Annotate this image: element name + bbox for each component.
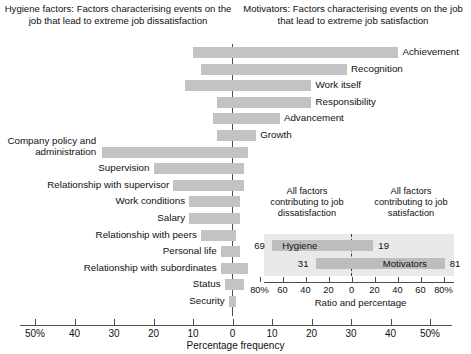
motivators-heading: Motivators: Factors characterising event… [240, 3, 466, 26]
bar-label: Salary [0, 212, 185, 224]
bar-row: Advancement [0, 112, 471, 126]
axis-tick-label: 30 [331, 328, 371, 339]
inset-heading-dissatisfaction: All factors contributing to job dissatis… [264, 186, 350, 218]
inset-left-value: 69 [254, 240, 265, 251]
axis-tick [154, 319, 155, 326]
axis-tick [351, 319, 352, 326]
bar [102, 147, 248, 158]
bar [217, 97, 312, 108]
inset-axis-tick [444, 277, 445, 282]
inset-left-value: 31 [298, 258, 309, 269]
inset-bar-label: Hygiene [282, 240, 317, 251]
axis-tick-label: 10 [252, 328, 292, 339]
bar-label: Security [0, 295, 225, 307]
bar-label: Advancement [284, 112, 344, 124]
axis-tick-label: 40 [371, 328, 411, 339]
bar [154, 163, 245, 174]
inset-axis-tick [329, 277, 330, 282]
bar-row: Recognition [0, 63, 471, 77]
bar [193, 47, 398, 58]
bar-label: Recognition [351, 63, 403, 75]
x-axis-title: Percentage frequency [0, 340, 471, 351]
inset-axis-title: Ratio and percentage [256, 297, 465, 308]
bar-label: Relationship with subordinates [0, 262, 217, 274]
inset-axis-tick [260, 277, 261, 282]
bar [229, 296, 237, 307]
bar [189, 213, 240, 224]
axis-tick [312, 319, 313, 326]
ratio-inset-panel: All factors contributing to job dissatis… [256, 186, 465, 310]
inset-axis-tick-label: 80% [429, 285, 459, 295]
inset-bar-label: Motivators [383, 258, 427, 269]
bar [201, 64, 347, 75]
inset-right-value: 19 [378, 240, 389, 251]
bar-row: Work itself [0, 79, 471, 93]
x-axis: 50%4030201001020304050% Percentage frequ… [0, 316, 471, 354]
inset-axis-line [264, 282, 454, 283]
bar-row: Company policy and administration [0, 146, 471, 160]
bar-label: Company policy and administration [4, 135, 96, 158]
bar-label: Achievement [402, 46, 459, 58]
bar-label: Responsibility [316, 96, 376, 108]
bar-label: Work itself [316, 79, 362, 91]
hygiene-factors-heading: Hygiene factors: Factors characterising … [4, 3, 232, 26]
inset-axis-tick [306, 277, 307, 282]
inset-axis-tick [421, 277, 422, 282]
inset-right-value: 81 [450, 258, 461, 269]
axis-tick [193, 319, 194, 326]
bar-row: Supervision [0, 162, 471, 176]
bar-label: Supervision [0, 162, 150, 174]
bar [213, 113, 280, 124]
bar [225, 279, 245, 290]
bar-label: Growth [260, 129, 292, 141]
axis-tick [272, 319, 273, 326]
bar [201, 230, 237, 241]
bar [217, 130, 257, 141]
bar [185, 80, 311, 91]
axis-tick [233, 319, 234, 326]
bar [221, 263, 249, 274]
bar-label: Relationship with peers [0, 229, 197, 241]
bar [189, 196, 240, 207]
axis-tick [114, 319, 115, 326]
axis-tick [391, 319, 392, 326]
bar-row: Achievement [0, 46, 471, 60]
herzberg-two-factor-chart: Hygiene factors: Factors characterising … [0, 0, 471, 354]
axis-tick-label: 20 [292, 328, 332, 339]
axis-tick-label: 20 [134, 328, 174, 339]
inset-axis-tick [398, 277, 399, 282]
bar-label: Status [0, 278, 221, 290]
bar-label: Work conditions [0, 195, 185, 207]
bar-row: Responsibility [0, 96, 471, 110]
axis-tick-label: 40 [55, 328, 95, 339]
axis-tick-label: 0 [213, 328, 253, 339]
axis-tick [75, 319, 76, 326]
inset-heading-satisfaction: All factors contributing to job satisfac… [368, 186, 454, 218]
axis-tick-label: 50% [410, 328, 450, 339]
bar-label: Personal life [0, 245, 217, 257]
axis-tick-label: 30 [94, 328, 134, 339]
bar [173, 180, 244, 191]
axis-tick [35, 319, 36, 326]
inset-axis-tick [375, 277, 376, 282]
bar-label: Relationship with supervisor [0, 179, 169, 191]
bar [221, 246, 241, 257]
axis-tick [430, 319, 431, 326]
x-axis-line [20, 325, 452, 326]
inset-axis-tick [283, 277, 284, 282]
inset-axis-tick [352, 277, 353, 282]
axis-tick-label: 50% [15, 328, 55, 339]
axis-tick-label: 10 [173, 328, 213, 339]
